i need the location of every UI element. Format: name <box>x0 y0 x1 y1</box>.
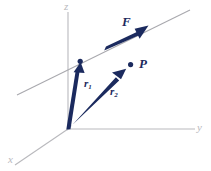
vector-label-r2: r2 <box>110 86 118 97</box>
vector-label-r1-subscript: 1 <box>88 83 92 91</box>
z-axis-label: z <box>64 1 68 12</box>
y-axis-label: y <box>197 122 202 133</box>
vector-diagram-figure: z y x F P r1 r2 <box>0 0 211 171</box>
x-axis-label: x <box>8 154 13 165</box>
force-label-F: F <box>122 15 131 28</box>
x-axis-line <box>15 129 68 165</box>
r1-tip-dot <box>78 59 83 64</box>
point-P-dot <box>128 62 133 67</box>
point-label-P: P <box>139 57 147 70</box>
diagram-canvas <box>0 0 211 171</box>
vector-label-r2-subscript: 2 <box>114 91 118 99</box>
vector-label-r1: r1 <box>84 78 92 89</box>
force-vector-F <box>104 26 148 51</box>
line-of-action <box>17 10 190 95</box>
